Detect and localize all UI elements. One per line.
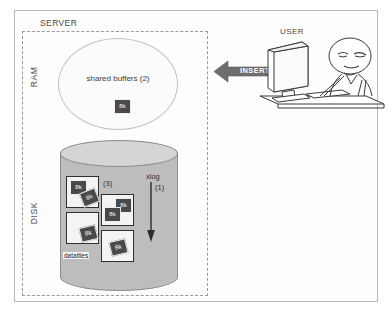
disk-section-label: DISK: [29, 193, 39, 233]
datafiles-step-label: (3): [103, 179, 112, 188]
server-label: SERVER: [40, 18, 77, 28]
xlog-step-label: (1): [155, 183, 164, 192]
datafile-2-block-8k-b: 8k: [104, 207, 121, 222]
xlog-label: xlog: [146, 172, 160, 181]
shared-buffers-block-8k: 8k: [114, 99, 131, 114]
shared-buffers-label: shared buffers (2): [58, 74, 178, 83]
shared-buffers-ellipse: [58, 38, 178, 130]
datafiles-label: datafiles: [63, 252, 89, 259]
xlog-arrow-icon: [146, 182, 156, 244]
diagram-canvas: SERVER RAM DISK shared buffers (2) 8k 8k…: [0, 0, 392, 316]
user-workstation-illustration: [258, 34, 388, 114]
disk-cylinder-top: [60, 140, 178, 167]
ram-section-label: RAM: [29, 57, 39, 97]
